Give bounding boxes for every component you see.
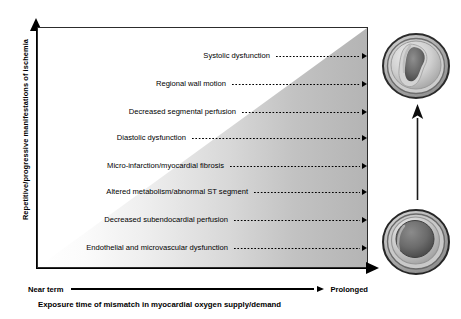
row-arrow-icon — [362, 81, 367, 87]
manifestation-label: Regional wall motion — [156, 78, 226, 90]
plot-area: Systolic dysfunction Regional wall motio… — [37, 27, 368, 268]
row-arrow-icon — [362, 53, 367, 59]
row-arrow-icon — [362, 217, 367, 223]
leader-dots — [254, 192, 360, 193]
leader-dots — [232, 84, 360, 85]
figure-canvas: Repetitive/progressive manifestations of… — [0, 0, 461, 319]
x-axis-end-label: Prolonged — [330, 285, 368, 294]
severity-gradient-wedge — [38, 28, 367, 267]
manifestation-row: Systolic dysfunction — [38, 50, 367, 62]
manifestation-label: Endothelial and microvascular dysfunctio… — [86, 242, 228, 254]
leader-dots — [276, 56, 360, 57]
row-arrow-icon — [362, 163, 367, 169]
manifestation-row: Micro-infarction/myocardial fibrosis — [38, 160, 367, 172]
x-axis-scale-arrow-icon — [317, 286, 324, 292]
manifestation-row: Decreased segmental perfusion — [38, 106, 367, 118]
x-axis-scale: Near term Prolonged — [28, 283, 368, 295]
leader-dots — [234, 220, 360, 221]
leader-dots — [242, 112, 360, 113]
ventricle-cross-section-remodeled — [380, 30, 452, 102]
manifestation-label: Systolic dysfunction — [203, 50, 270, 62]
manifestation-row: Decreased subendocardial perfusion — [38, 214, 367, 226]
manifestation-label: Micro-infarction/myocardial fibrosis — [107, 160, 224, 172]
leader-dots — [230, 166, 360, 167]
x-axis-line — [37, 268, 368, 269]
x-axis-arrow-icon — [366, 262, 379, 274]
manifestation-row: Regional wall motion — [38, 78, 367, 90]
x-axis-start-label: Near term — [28, 285, 63, 294]
manifestation-row: Altered metabolism/abnormal ST segment — [38, 186, 367, 198]
manifestation-row: Diastolic dysfunction — [38, 132, 367, 144]
manifestation-label: Decreased subendocardial perfusion — [104, 214, 228, 226]
manifestation-row: Endothelial and microvascular dysfunctio… — [38, 242, 367, 254]
leader-dots — [192, 138, 360, 139]
ventricle-cross-section-normal — [380, 205, 452, 277]
row-arrow-icon — [362, 135, 367, 141]
x-axis-scale-line — [71, 288, 314, 289]
x-axis-caption: Exposure time of mismatch in myocardial … — [38, 300, 281, 309]
y-axis-label: Repetitive/progressive manifestations of… — [21, 5, 30, 255]
manifestation-label: Altered metabolism/abnormal ST segment — [106, 186, 248, 198]
progression-up-arrow — [411, 104, 424, 200]
row-arrow-icon — [362, 189, 367, 195]
row-arrow-icon — [362, 109, 367, 115]
row-arrow-icon — [362, 245, 367, 251]
manifestation-label: Decreased segmental perfusion — [129, 106, 236, 118]
manifestation-label: Diastolic dysfunction — [117, 132, 186, 144]
leader-dots — [234, 248, 360, 249]
